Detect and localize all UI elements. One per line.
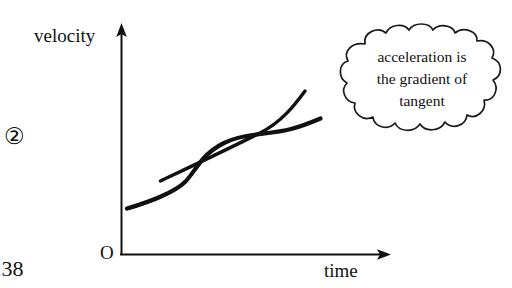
y-axis-label: velocity	[34, 26, 95, 45]
x-axis	[120, 249, 391, 260]
velocity-curve-path	[127, 119, 321, 209]
thought-cloud-line-2: the gradient of	[352, 68, 492, 90]
thought-cloud-line-1: acceleration is	[352, 46, 492, 68]
figure-number-badge: ②	[4, 125, 25, 148]
thought-cloud-line-3: tangent	[352, 90, 492, 112]
y-axis	[116, 23, 127, 254]
velocity-curve	[127, 119, 321, 209]
thought-cloud-text: acceleration is the gradient of tangent	[352, 46, 492, 112]
x-axis-label: time	[324, 261, 358, 280]
page-number: .38	[0, 258, 24, 280]
tangent-line	[161, 91, 306, 181]
tangent-line-path	[161, 91, 306, 181]
origin-label: O	[100, 243, 114, 262]
